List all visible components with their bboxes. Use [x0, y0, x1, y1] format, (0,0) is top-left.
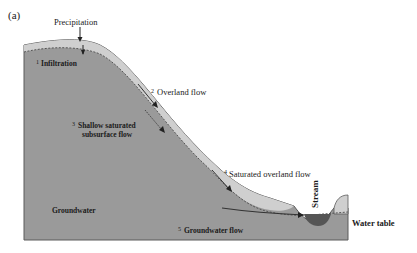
hillslope-diagram: (a) Precipitation 1 Infiltration 2 Overl…	[0, 0, 417, 253]
shallow-flow-label-1: Shallow saturated	[78, 121, 137, 130]
infiltration-label: Infiltration	[41, 59, 78, 68]
overland-flow-label: Overland flow	[157, 87, 207, 97]
infiltration-number: 1	[36, 59, 39, 65]
saturated-number: 4	[224, 169, 227, 175]
stream-label: Stream	[310, 180, 320, 208]
soil-layer-right	[334, 195, 348, 214]
shallow-number: 3	[72, 121, 75, 127]
saturated-flow-label: Saturated overland flow	[229, 169, 312, 179]
gwflow-number: 5	[178, 226, 181, 232]
water-table-label: Water table	[352, 218, 395, 228]
panel-label: (a)	[8, 9, 21, 22]
groundwater-label: Groundwater	[52, 206, 96, 215]
shallow-flow-label-2: subsurface flow	[82, 130, 133, 139]
overland-number: 2	[151, 88, 154, 94]
groundwater-flow-label: Groundwater flow	[184, 226, 244, 235]
precipitation-label: Precipitation	[54, 17, 98, 27]
